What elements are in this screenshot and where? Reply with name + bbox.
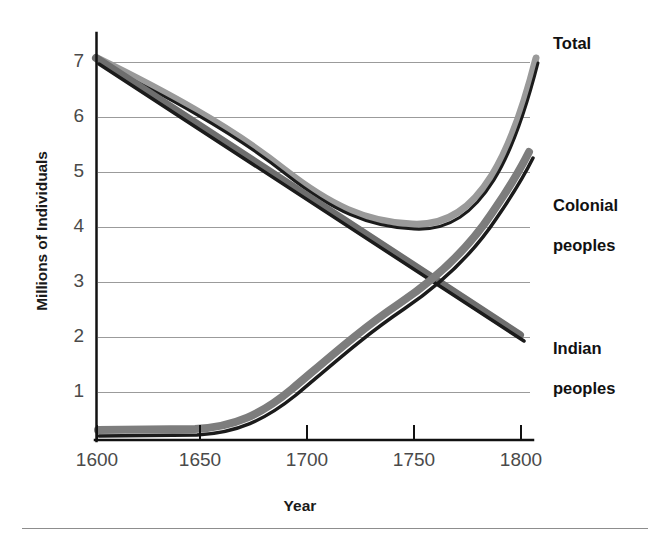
series-label-total: Total xyxy=(553,33,591,53)
y-tick-label-3: 3 xyxy=(56,270,84,292)
y-axis-title: Millions of Individuals xyxy=(33,121,51,341)
y-tick-label-7: 7 xyxy=(56,50,84,72)
series-line-indian xyxy=(99,64,524,341)
series-label-colonial-line2: peoples xyxy=(553,236,615,254)
x-tick-label-1750: 1750 xyxy=(374,449,454,471)
series-label-indian-line1: Indian xyxy=(553,339,602,357)
series-label-indian: Indian peoples xyxy=(553,318,615,399)
chart-figure: Millions of Individuals 7 6 5 4 3 2 1 16… xyxy=(0,0,668,538)
series-line-indian-shadow xyxy=(96,58,520,335)
y-tick-label-5: 5 xyxy=(56,160,84,182)
x-tick-label-1700: 1700 xyxy=(267,449,347,471)
x-tick-label-1800: 1800 xyxy=(481,449,561,471)
x-axis-title: Year xyxy=(0,497,600,515)
x-tick-label-1650: 1650 xyxy=(160,449,240,471)
bottom-divider xyxy=(22,528,648,529)
series-label-colonial: Colonial peoples xyxy=(553,175,618,256)
series-label-colonial-line1: Colonial xyxy=(553,196,618,214)
series-label-indian-line2: peoples xyxy=(553,379,615,397)
y-tick-label-2: 2 xyxy=(56,325,84,347)
y-tick-label-6: 6 xyxy=(56,105,84,127)
y-tick-label-1: 1 xyxy=(56,380,84,402)
gridlines xyxy=(98,63,530,393)
x-tick-label-1600: 1600 xyxy=(57,449,137,471)
y-tick-label-4: 4 xyxy=(56,215,84,237)
